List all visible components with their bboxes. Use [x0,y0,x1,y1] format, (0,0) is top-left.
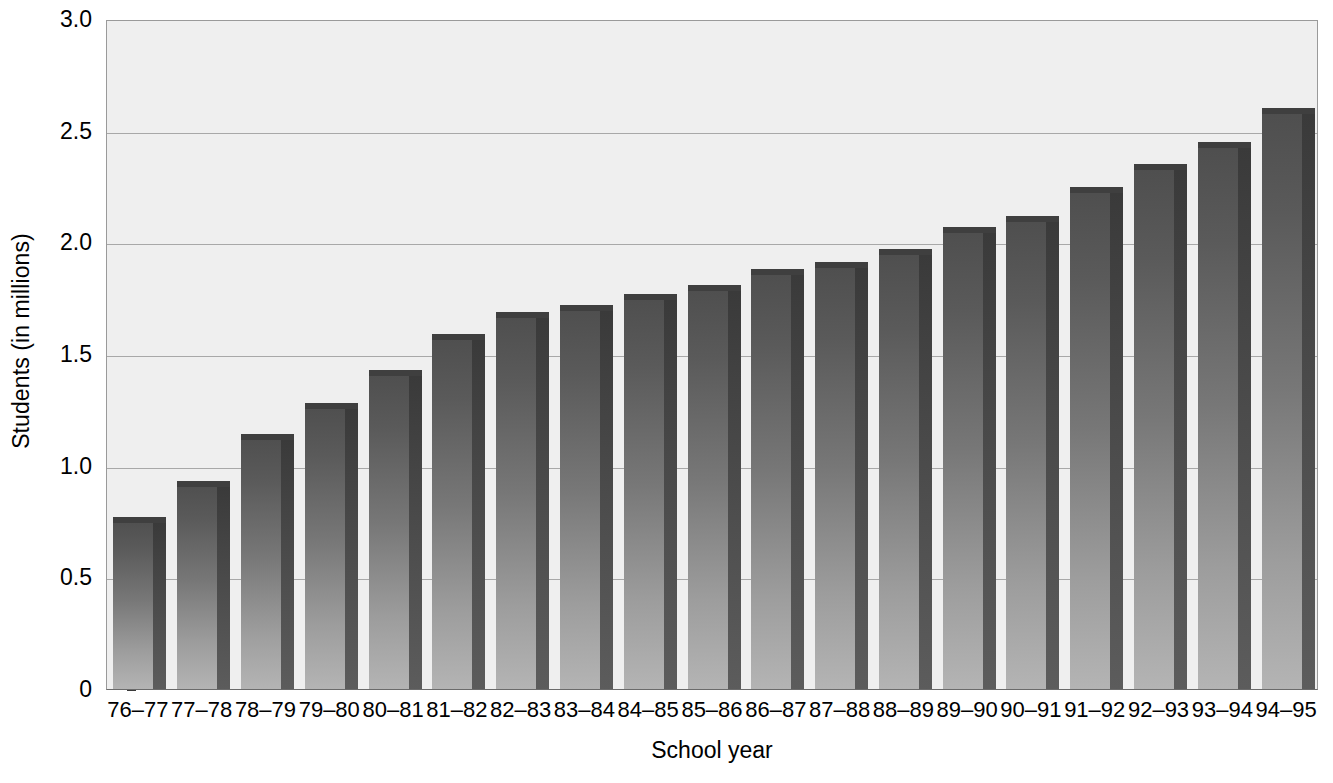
plot-area [106,20,1318,690]
gridline [107,133,1317,134]
bar[interactable] [1262,108,1315,689]
bar-top-face [943,227,996,233]
bar-side-face [345,409,358,689]
x-tick-label: 90–91 [999,697,1063,723]
bar-side-face [281,440,294,689]
x-tick-label: 87–88 [808,697,872,723]
bar[interactable] [1006,216,1059,689]
bar-side-face [1046,222,1059,689]
bar-front-face [496,312,536,689]
y-tick-label: 1.0 [34,455,92,478]
x-tick-label: 82–83 [489,697,553,723]
bar-front-face [1198,142,1238,689]
bar[interactable] [688,285,741,689]
bar[interactable] [751,269,804,689]
y-tick-label: 2.0 [34,231,92,254]
x-axis-title: School year [106,736,1318,764]
bar-top-face [751,269,804,275]
bar[interactable] [1070,187,1123,690]
bar-side-face [153,523,166,689]
bar-side-face [728,291,741,689]
x-tick-label: 80–81 [361,697,425,723]
bar-front-face [305,403,345,689]
bar-front-face [1006,216,1046,689]
bar-top-face [1198,142,1251,148]
bar-front-face [1134,164,1174,689]
bar-side-face [536,318,549,689]
x-tick-label: 94–95 [1254,697,1318,723]
bar[interactable] [432,334,485,689]
bar[interactable] [560,305,613,689]
bar-front-face [688,285,728,689]
bar-side-face [919,255,932,689]
bar-top-face [432,334,485,340]
bar-top-face [241,434,294,440]
bar[interactable] [624,294,677,689]
bar-top-face [177,481,230,487]
y-tick-mark [127,690,136,691]
x-tick-label: 78–79 [234,697,298,723]
x-tick-label: 77–78 [170,697,234,723]
bar[interactable] [815,262,868,689]
bar-side-face [472,340,485,689]
bar-front-face [369,370,409,689]
y-tick-label: 0 [34,678,92,701]
bar-front-face [943,227,983,689]
x-tick-label: 89–90 [935,697,999,723]
x-tick-label: 88–89 [871,697,935,723]
bar-top-face [688,285,741,291]
bar[interactable] [879,249,932,689]
bar-top-face [305,403,358,409]
bar[interactable] [496,312,549,689]
bar[interactable] [943,227,996,689]
x-tick-label: 81–82 [425,697,489,723]
bar-side-face [217,487,230,689]
bar[interactable] [369,370,422,689]
bar[interactable] [1198,142,1251,689]
bar[interactable] [1134,164,1187,689]
bar-front-face [113,517,153,689]
y-tick-label: 2.5 [34,120,92,143]
bar-top-face [1134,164,1187,170]
bar-side-face [1174,170,1187,689]
bar-front-face [751,269,791,689]
bar-side-face [791,275,804,689]
bar-front-face [624,294,664,689]
bar-top-face [560,305,613,311]
bar[interactable] [177,481,230,689]
x-axis-tick-labels: 76–7777–7878–7979–8080–8181–8282–8383–84… [106,697,1318,727]
y-tick-label: 3.0 [34,8,92,31]
x-tick-label: 76–77 [106,697,170,723]
bar-side-face [600,311,613,689]
bar-top-face [1070,187,1123,193]
bar-top-face [369,370,422,376]
bar-top-face [815,262,868,268]
x-tick-label: 79–80 [297,697,361,723]
x-tick-label: 84–85 [616,697,680,723]
y-tick-label: 0.5 [34,566,92,589]
x-tick-label: 92–93 [1127,697,1191,723]
bar-front-face [815,262,855,689]
bar[interactable] [113,517,166,689]
bar-top-face [113,517,166,523]
bar-side-face [1302,114,1315,689]
bar-chart: Students (in millions) 3.02.52.01.51.00.… [0,0,1333,783]
bar-front-face [432,334,472,689]
bar-front-face [879,249,919,689]
bar-top-face [496,312,549,318]
bar-front-face [241,434,281,689]
bar-top-face [624,294,677,300]
bar-front-face [560,305,600,689]
bar-side-face [1110,193,1123,690]
bar-front-face [1070,187,1110,690]
bar-side-face [983,233,996,689]
bar-side-face [855,268,868,689]
bar-top-face [1006,216,1059,222]
x-tick-label: 93–94 [1190,697,1254,723]
x-tick-label: 85–86 [680,697,744,723]
bar[interactable] [241,434,294,689]
x-tick-label: 86–87 [744,697,808,723]
bar-side-face [664,300,677,689]
bar[interactable] [305,403,358,689]
bar-front-face [1262,108,1302,689]
